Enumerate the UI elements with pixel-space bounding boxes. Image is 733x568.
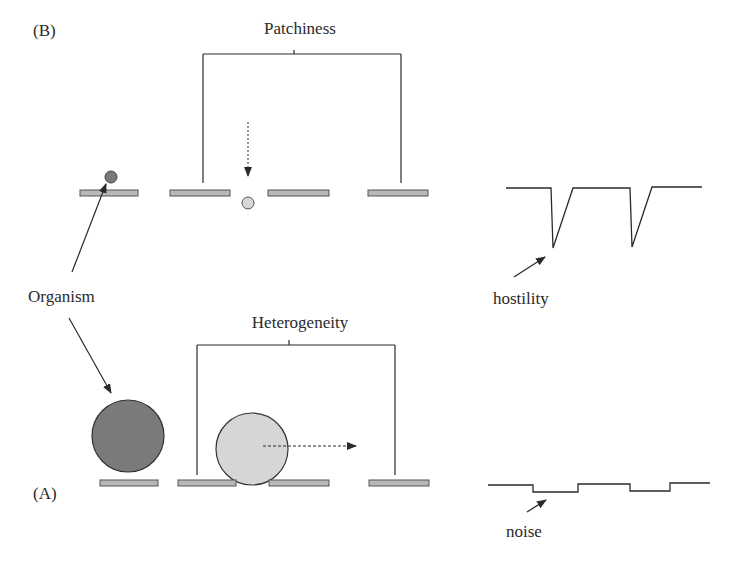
organism-large-light (216, 413, 288, 485)
patch (368, 190, 428, 196)
patchiness-bracket (203, 50, 401, 183)
patch (268, 190, 329, 196)
patch (269, 480, 329, 486)
organism-label: Organism (28, 287, 95, 306)
diagram-canvas: (B) Patchiness hostility Organism (0, 0, 733, 568)
organism-small-dark (105, 171, 117, 183)
noise-trace (488, 483, 710, 492)
patch (100, 480, 158, 486)
panel-b-label: (B) (33, 21, 56, 40)
patch (369, 480, 429, 486)
patchiness-title: Patchiness (264, 19, 336, 38)
hostility-trace (506, 187, 702, 248)
organism-large-dark (92, 400, 164, 472)
noise-label: noise (506, 522, 542, 541)
hostility-label: hostility (493, 289, 549, 308)
organism-arrow-down (69, 318, 111, 393)
patches-b (80, 190, 428, 196)
panel-a: Heterogeneity (A) noise (33, 313, 710, 541)
patch (170, 190, 230, 196)
patch (80, 190, 138, 196)
hostility-arrow (514, 257, 545, 277)
noise-arrow (527, 500, 546, 512)
organism-annotation: Organism (28, 184, 111, 393)
panel-a-label: (A) (33, 484, 57, 503)
organism-arrow-up (72, 184, 106, 272)
heterogeneity-title: Heterogeneity (252, 313, 349, 332)
patch (178, 480, 236, 486)
panel-b: (B) Patchiness hostility (33, 19, 702, 308)
organism-small-light (242, 197, 254, 209)
